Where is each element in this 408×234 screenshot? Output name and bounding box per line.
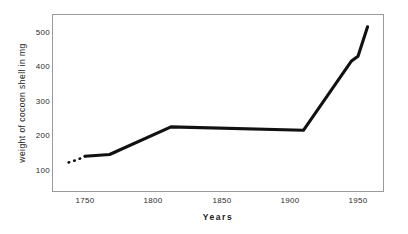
y-tick-label-400: 400 — [24, 62, 50, 71]
x-axis-title: Years — [203, 212, 234, 222]
x-tick-label-1800: 1800 — [144, 196, 163, 205]
plot-area-frame — [52, 14, 384, 192]
line-chart: 100 200 300 400 500 1750 1800 1850 1900 … — [0, 0, 408, 234]
x-tick-label-1950: 1950 — [349, 196, 368, 205]
y-tick-label-100: 100 — [24, 166, 50, 175]
x-tick-label-1750: 1750 — [76, 196, 95, 205]
y-tick-label-300: 300 — [24, 97, 50, 106]
x-axis-tick-labels: 1750 1800 1850 1900 1950 — [0, 196, 408, 210]
y-axis-title: weight of cocoon shell in mg — [17, 43, 27, 162]
y-tick-label-500: 500 — [24, 28, 50, 37]
x-tick-label-1900: 1900 — [281, 196, 300, 205]
x-tick-label-1850: 1850 — [213, 196, 232, 205]
y-tick-label-200: 200 — [24, 131, 50, 140]
